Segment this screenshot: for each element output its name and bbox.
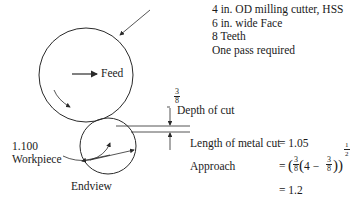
spec-line-3: 8 Teeth xyxy=(212,30,343,44)
depth-of-cut-label: Depth of cut xyxy=(177,104,234,117)
approach-fraction-2: 3 8 xyxy=(326,156,332,173)
paren-close: )) xyxy=(333,157,343,174)
spec-line-2: 6 in. wide Face xyxy=(212,17,343,31)
feed-label: Feed xyxy=(101,67,123,80)
diameter-dim-arrow xyxy=(90,150,134,160)
approach-exponent: 1 2 xyxy=(344,141,350,158)
length-label: Length of metal cut xyxy=(190,137,280,149)
spec-line-4: One pass required xyxy=(212,44,343,58)
approach-equals: = xyxy=(279,160,286,172)
cutter-leader-arrow xyxy=(120,10,150,35)
workpiece-leader xyxy=(63,143,110,161)
length-value: = 1.05 xyxy=(279,137,309,149)
depth-fraction: 3 8 xyxy=(174,88,180,105)
workpiece-dimension: 1.100 xyxy=(12,140,38,153)
approach-inner: 4 − xyxy=(304,160,319,172)
workpiece-label: Workpiece xyxy=(12,153,62,166)
approach-result: = 1.2 xyxy=(279,184,303,196)
cutter-specs: 4 in. OD milling cutter, HSS 6 in. wide … xyxy=(212,3,343,57)
rotation-arrow-icon xyxy=(54,90,70,107)
endview-label: Endview xyxy=(71,180,112,193)
spec-line-1: 4 in. OD milling cutter, HSS xyxy=(212,3,343,17)
approach-label: Approach xyxy=(190,160,235,172)
